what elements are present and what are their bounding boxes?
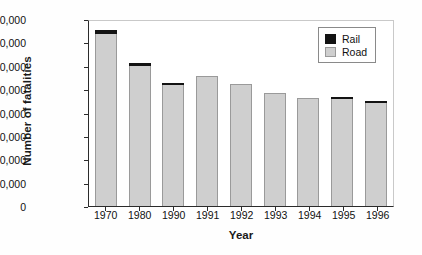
- x-axis-ticks: 197019801990199119921993199419951996: [88, 209, 394, 225]
- legend-label: Road: [342, 46, 367, 58]
- y-axis-tick-label: 40,000: [0, 108, 26, 120]
- bar-1994: [297, 21, 319, 206]
- x-axis-title: Year: [88, 229, 394, 241]
- chart-legend: RailRoad: [318, 27, 376, 63]
- bar-segment-road: [95, 34, 117, 206]
- bar-1991: [196, 21, 218, 206]
- bar-segment-road: [230, 84, 252, 206]
- y-axis-tick-mark: [84, 207, 88, 208]
- y-axis-tick-label: 60,000: [0, 61, 26, 73]
- bar-1992: [230, 21, 252, 206]
- bar-1970: [95, 21, 117, 206]
- bar-segment-road: [297, 98, 319, 206]
- legend-label: Rail: [342, 33, 360, 45]
- y-axis-tick-label: 50,000: [0, 84, 26, 96]
- bar-segment-road: [264, 93, 286, 206]
- x-axis-tick-label: 1995: [332, 209, 354, 225]
- legend-item-road: Road: [325, 45, 367, 58]
- x-axis-tick-label: 1992: [230, 209, 252, 225]
- bar-chart: Number of fatalities 010,00020,00030,000…: [0, 0, 422, 255]
- bar-segment-road: [331, 99, 353, 206]
- y-axis-tick-label: 80,000: [0, 14, 26, 26]
- x-axis-tick-label: 1970: [94, 209, 116, 225]
- bar-segment-road: [129, 66, 151, 206]
- bar-1993: [264, 21, 286, 206]
- x-axis-tick-label: 1980: [128, 209, 150, 225]
- x-axis-tick-label: 1991: [196, 209, 218, 225]
- y-axis-tick-label: 30,000: [0, 131, 26, 143]
- bar-1990: [162, 21, 184, 206]
- legend-item-rail: Rail: [325, 32, 367, 45]
- x-axis-tick-label: 1994: [298, 209, 320, 225]
- bar-segment-road: [365, 103, 387, 206]
- y-axis-tick-label: 20,000: [0, 154, 26, 166]
- legend-swatch-icon: [325, 34, 336, 44]
- bar-segment-road: [162, 85, 184, 206]
- y-axis-tick-label: 10,000: [0, 178, 26, 190]
- y-axis-tick-label: 70,000: [0, 37, 26, 49]
- bar-segment-road: [196, 76, 218, 206]
- legend-swatch-icon: [325, 47, 336, 57]
- x-axis-tick-label: 1996: [366, 209, 388, 225]
- x-axis-tick-label: 1990: [162, 209, 184, 225]
- y-axis-tick-label: 0: [20, 201, 26, 213]
- bar-1980: [129, 21, 151, 206]
- x-axis-tick-label: 1993: [264, 209, 286, 225]
